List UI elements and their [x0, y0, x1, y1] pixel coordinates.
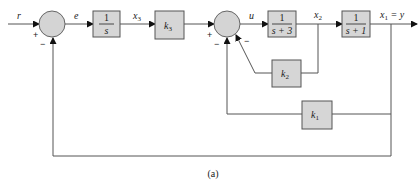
signal-x3-label: x3 [132, 10, 141, 23]
sum1-plus-sign: + [33, 30, 38, 40]
plant-s-plus-3-block: 1 s + 3 [268, 11, 296, 37]
k2-feedback-path-out [236, 35, 272, 73]
signal-u-label: u [249, 10, 254, 21]
signal-x2-label: x2 [313, 9, 322, 22]
k2-feedback-path-in [301, 24, 318, 73]
k2-block: k2 [272, 60, 301, 87]
signal-output-label: x1 = y [379, 9, 405, 22]
plant1-numerator: 1 [354, 12, 359, 23]
k1-block: k1 [302, 101, 332, 129]
sum2-minus-sign-bottom: − [214, 39, 219, 49]
plant-s-plus-1-block: 1 s + 1 [342, 11, 370, 37]
summing-junction-2 [214, 11, 240, 37]
plant1-denominator: s + 1 [346, 25, 367, 36]
block-diagram: r + − e 1 s x3 k3 + − − u 1 s + 3 x2 1 [0, 0, 420, 182]
figure-caption: (a) [207, 168, 218, 180]
plant2-numerator: 1 [280, 12, 285, 23]
signal-e-label: e [74, 10, 79, 21]
integrator-numerator: 1 [104, 12, 109, 23]
sum1-minus-sign: − [40, 39, 45, 49]
integrator-block: 1 s [93, 11, 120, 37]
plant2-denominator: s + 3 [272, 25, 293, 36]
summing-junction-1 [39, 11, 65, 37]
k3-block: k3 [155, 11, 184, 39]
sum2-plus-sign: + [207, 30, 212, 40]
unity-feedback-path [53, 38, 391, 156]
integrator-denominator: s [105, 25, 109, 36]
sum2-minus-sign-right: − [244, 36, 249, 46]
signal-r-label: r [17, 10, 21, 21]
